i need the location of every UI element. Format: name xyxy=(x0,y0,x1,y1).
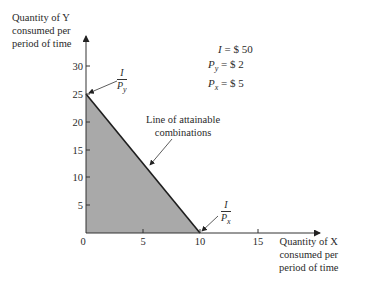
x-axis-label-line: period of time xyxy=(279,261,338,274)
y-axis-label-line: consumed per xyxy=(12,24,71,37)
y-axis-label: Quantity of Y consumed per period of tim… xyxy=(12,11,71,50)
budget-line-annotation: Line of attainable combinations xyxy=(146,113,220,139)
y-intercept-label: I Py xyxy=(117,68,127,95)
y-tick-label: 20 xyxy=(73,117,84,128)
y-axis-label-line: Quantity of Y xyxy=(12,11,71,24)
income-param: I = $ 50 xyxy=(208,42,253,57)
x-tick-label: 0 xyxy=(80,236,85,247)
denominator-subscript: y xyxy=(123,85,127,94)
price-y-param: Py = $ 2 xyxy=(208,57,253,77)
x-axis-label-line: consumed per xyxy=(279,248,338,261)
x-tick-label: 10 xyxy=(195,236,206,247)
fraction-numerator: I xyxy=(117,68,127,80)
income-value: = $ 50 xyxy=(222,43,253,55)
x-intercept-label: I Px xyxy=(221,200,231,227)
x-axis-label: Quantity of X consumed per period of tim… xyxy=(279,235,338,274)
price-y-symbol: P xyxy=(208,58,215,70)
price-x-param: Px = $ 5 xyxy=(208,76,253,96)
x-tick-label: 15 xyxy=(253,236,264,247)
y-axis-label-line: period of time xyxy=(12,37,71,50)
x-tick-label: 5 xyxy=(140,236,145,247)
annotation-arrow-line xyxy=(150,139,172,165)
fraction-numerator: I xyxy=(221,200,231,212)
annotation-arrow-px xyxy=(202,216,218,231)
parameters-legend: I = $ 50 Py = $ 2 Px = $ 5 xyxy=(208,42,253,96)
fraction-denominator: Py xyxy=(117,80,127,95)
annotation-line: Line of attainable xyxy=(146,113,220,126)
price-y-value: = $ 2 xyxy=(218,58,243,70)
y-tick-label: 5 xyxy=(78,200,83,211)
annotation-arrow-py xyxy=(89,81,117,93)
x-axis-label-line: Quantity of X xyxy=(279,235,338,248)
price-x-symbol: P xyxy=(208,77,215,89)
price-x-value: = $ 5 xyxy=(218,77,243,89)
fraction-denominator: Px xyxy=(221,212,231,227)
denominator-subscript: x xyxy=(227,217,231,226)
y-tick-label: 10 xyxy=(73,172,84,183)
y-tick-label: 25 xyxy=(73,89,84,100)
y-tick-label: 30 xyxy=(73,61,84,72)
annotation-line: combinations xyxy=(146,126,220,139)
y-tick-label: 15 xyxy=(73,145,84,156)
